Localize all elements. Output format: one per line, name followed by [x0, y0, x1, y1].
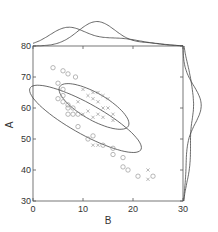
kde-curve-top: [33, 27, 183, 46]
data-point-x: [91, 91, 94, 94]
y-axis-label: A: [4, 121, 15, 128]
data-point-x: [101, 116, 104, 119]
y-tick-label: 30: [21, 196, 31, 206]
data-point-circle: [111, 152, 115, 156]
data-point-circle: [73, 75, 77, 79]
data-point-circle: [66, 112, 70, 116]
data-point-x: [146, 178, 149, 181]
data-point-x: [86, 94, 89, 97]
data-point-circle: [61, 100, 65, 104]
data-point-x: [96, 100, 99, 103]
x-tick-label: 30: [178, 204, 188, 214]
data-point-circle: [136, 174, 140, 178]
data-point-x: [86, 110, 89, 113]
data-point-x: [81, 88, 84, 91]
data-point-x: [146, 168, 149, 171]
data-point-circle: [66, 106, 70, 110]
y-tick-label: 70: [21, 72, 31, 82]
y-tick-label: 50: [21, 134, 31, 144]
data-point-x: [96, 113, 99, 116]
x-axis-label: B: [105, 215, 112, 226]
data-point-circle: [56, 97, 60, 101]
data-point-circle: [61, 69, 65, 73]
y-tick-label: 80: [21, 41, 31, 51]
data-point-x: [101, 106, 104, 109]
data-point-x: [91, 144, 94, 147]
x-tick-label: 10: [78, 204, 88, 214]
data-point-circle: [126, 168, 130, 172]
ellipses: [30, 84, 142, 153]
data-point-x: [91, 97, 94, 100]
y-tick-label: 60: [21, 103, 31, 113]
data-point-x: [91, 116, 94, 119]
data-point-circle: [51, 66, 55, 70]
data-point-circle: [66, 72, 70, 76]
kde-curve-top: [33, 22, 183, 46]
data-point-circle: [56, 81, 60, 85]
data-point-circle: [76, 112, 80, 116]
x-tick-label: 0: [30, 204, 35, 214]
kde-curve-right: [183, 46, 201, 201]
data-point-circle: [121, 165, 125, 169]
data-point-circle: [151, 174, 155, 178]
data-point-x: [76, 100, 79, 103]
data-point-x: [111, 113, 114, 116]
data-point-circle: [91, 134, 95, 138]
joint-scatter-chart: 0102030 304050607080 B A: [0, 0, 218, 232]
y-tick-label: 40: [21, 165, 31, 175]
right-marginal-kde: [183, 46, 201, 201]
data-point-x: [106, 106, 109, 109]
data-point-circle: [71, 112, 75, 116]
data-point-x: [111, 119, 114, 122]
scatter-points: [51, 66, 155, 181]
top-marginal-kde: [33, 22, 183, 46]
data-point-circle: [76, 124, 80, 128]
y-axis: 304050607080: [21, 41, 183, 206]
data-point-circle: [121, 155, 125, 159]
x-axis: 0102030: [30, 46, 188, 214]
confidence-ellipse: [30, 85, 142, 152]
plot-area: [33, 46, 183, 201]
data-point-x: [96, 144, 99, 147]
x-tick-label: 20: [128, 204, 138, 214]
